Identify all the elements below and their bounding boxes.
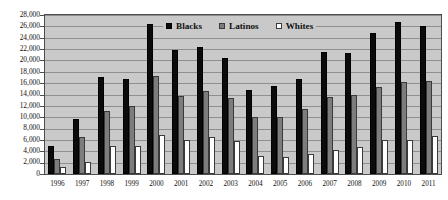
legend-item-blacks[interactable]: Blacks	[166, 21, 202, 31]
bar-group-2011	[416, 15, 441, 174]
legend-swatch-icon	[276, 23, 282, 29]
x-axis-tick-label: 2008	[342, 179, 367, 195]
bar-group-2001	[169, 15, 194, 174]
y-axis-tick-label: 14,000	[20, 90, 40, 98]
y-axis-tick-label: 22,000	[20, 45, 40, 53]
legend-swatch-icon	[166, 23, 172, 29]
y-axis-labels: 28,00026,00024,00022,00020,00018,00016,0…	[0, 0, 42, 200]
x-axis-tick-label: 2009	[367, 179, 392, 195]
bar-whites-2001	[184, 140, 190, 174]
bar-group-2009	[367, 15, 392, 174]
y-axis-tick-label: 6,000	[23, 136, 40, 144]
bar-whites-2010	[407, 140, 413, 174]
bar-whites-1999	[135, 146, 141, 174]
bar-whites-1996	[60, 167, 66, 174]
y-axis-tick-label: 18,000	[20, 68, 40, 76]
bar-whites-2004	[258, 156, 264, 174]
x-axis-tick-label: 2002	[194, 179, 219, 195]
bar-group-1996	[45, 15, 70, 174]
bar-whites-2009	[382, 140, 388, 174]
bar-chart: 28,00026,00024,00022,00020,00018,00016,0…	[0, 0, 448, 200]
bar-whites-2000	[159, 135, 165, 174]
bar-group-1997	[70, 15, 95, 174]
legend-label: Latinos	[229, 21, 259, 31]
bar-group-2006	[293, 15, 318, 174]
x-axis-tick-label: 1999	[119, 179, 144, 195]
y-axis-tick-label: 10,000	[20, 113, 40, 121]
bar-whites-1998	[110, 146, 116, 174]
bar-group-2010	[392, 15, 417, 174]
x-axis-tick-label: 2003	[218, 179, 243, 195]
bar-group-2004	[243, 15, 268, 174]
x-axis-tick-label: 2010	[392, 179, 417, 195]
legend-swatch-icon	[219, 23, 225, 29]
y-axis-tick-label: 28,000	[20, 11, 40, 19]
y-axis-tick-label: 8,000	[23, 124, 40, 132]
x-axis-tick-label: 2007	[317, 179, 342, 195]
x-axis-line	[44, 174, 442, 175]
x-axis-tick-label: 2000	[144, 179, 169, 195]
bar-whites-2005	[283, 157, 289, 174]
x-axis-tick-label: 1998	[95, 179, 120, 195]
bar-group-2002	[194, 15, 219, 174]
x-axis-tick-label: 1996	[45, 179, 70, 195]
bar-whites-2011	[432, 136, 438, 174]
bar-group-2007	[317, 15, 342, 174]
legend-item-whites[interactable]: Whites	[276, 21, 314, 31]
legend-label: Blacks	[176, 21, 202, 31]
x-axis-tick-label: 2001	[169, 179, 194, 195]
bar-group-1999	[119, 15, 144, 174]
y-axis-tick-label: 26,000	[20, 22, 40, 30]
bar-whites-2003	[234, 141, 240, 174]
chart-legend: BlacksLatinosWhites	[163, 20, 316, 32]
bar-whites-1997	[85, 162, 91, 174]
y-axis-tick-label: 16,000	[20, 79, 40, 87]
y-axis-tick-label: 4,000	[23, 147, 40, 155]
bar-group-1998	[95, 15, 120, 174]
x-axis-tick-label: 2006	[293, 179, 318, 195]
y-axis-tick-label: 12,000	[20, 102, 40, 110]
x-axis-tick-label: 2004	[243, 179, 268, 195]
bar-group-2000	[144, 15, 169, 174]
y-axis-tick-label: 2,000	[23, 158, 40, 166]
x-axis-labels: 1996199719981999200020012002200320042005…	[45, 179, 441, 195]
legend-label: Whites	[286, 21, 314, 31]
bars-layer	[45, 15, 441, 174]
x-axis-tick-label: 2011	[416, 179, 441, 195]
legend-item-latinos[interactable]: Latinos	[219, 21, 259, 31]
bar-whites-2006	[308, 154, 314, 174]
bar-group-2008	[342, 15, 367, 174]
bar-whites-2008	[357, 147, 363, 174]
y-axis-tick-label: 24,000	[20, 34, 40, 42]
bar-group-2003	[218, 15, 243, 174]
x-axis-tick-label: 2005	[268, 179, 293, 195]
bar-whites-2007	[333, 150, 339, 174]
bar-whites-2002	[209, 137, 215, 174]
y-axis-tick-label: 20,000	[20, 56, 40, 64]
bar-group-2005	[268, 15, 293, 174]
x-axis-tick-label: 1997	[70, 179, 95, 195]
